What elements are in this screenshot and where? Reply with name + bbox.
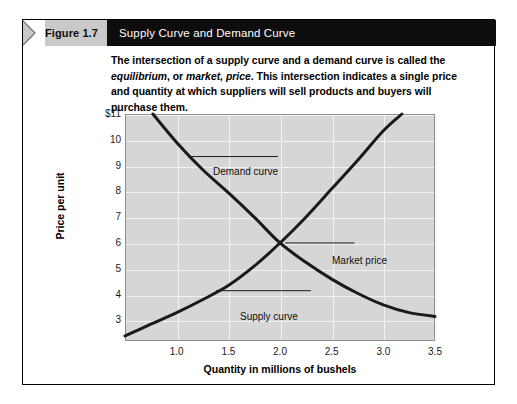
y-tick-label: $11 <box>81 109 121 119</box>
gridline-vertical <box>436 115 437 340</box>
annotation-market-price: Market price <box>332 256 387 266</box>
annotation-supply-curve: Supply curve <box>240 312 298 322</box>
y-tick-label: 3 <box>81 315 121 325</box>
y-axis-ticks: $11109876543 <box>77 20 121 386</box>
x-tick-label: 3.0 <box>363 346 403 357</box>
curve-demand-curve <box>153 114 435 316</box>
x-tick-label: 1.0 <box>157 346 197 357</box>
y-tick-label: 5 <box>81 264 121 274</box>
y-tick-label: 6 <box>81 238 121 248</box>
chart: $11109876543 1.01.52.02.53.03.5 Price pe… <box>23 20 496 386</box>
chart-curves <box>125 114 435 341</box>
x-tick-label: 2.5 <box>312 346 352 357</box>
y-tick-label: 9 <box>81 161 121 171</box>
y-axis-label: Price per unit <box>54 151 66 261</box>
x-tick-label: 1.5 <box>208 346 248 357</box>
y-tick-label: 4 <box>81 290 121 300</box>
x-tick-label: 2.0 <box>260 346 300 357</box>
y-tick-label: 8 <box>81 186 121 196</box>
x-axis-ticks: 1.01.52.02.53.03.5 <box>23 346 496 360</box>
x-tick-label: 3.5 <box>415 346 455 357</box>
figure-container: Figure 1.7 Supply Curve and Demand Curve… <box>22 19 495 385</box>
y-tick-label: 10 <box>81 135 121 145</box>
annotation-demand-curve: Demand curve <box>213 167 278 177</box>
y-tick-label: 7 <box>81 212 121 222</box>
x-axis-label: Quantity in millions of bushels <box>125 363 435 375</box>
